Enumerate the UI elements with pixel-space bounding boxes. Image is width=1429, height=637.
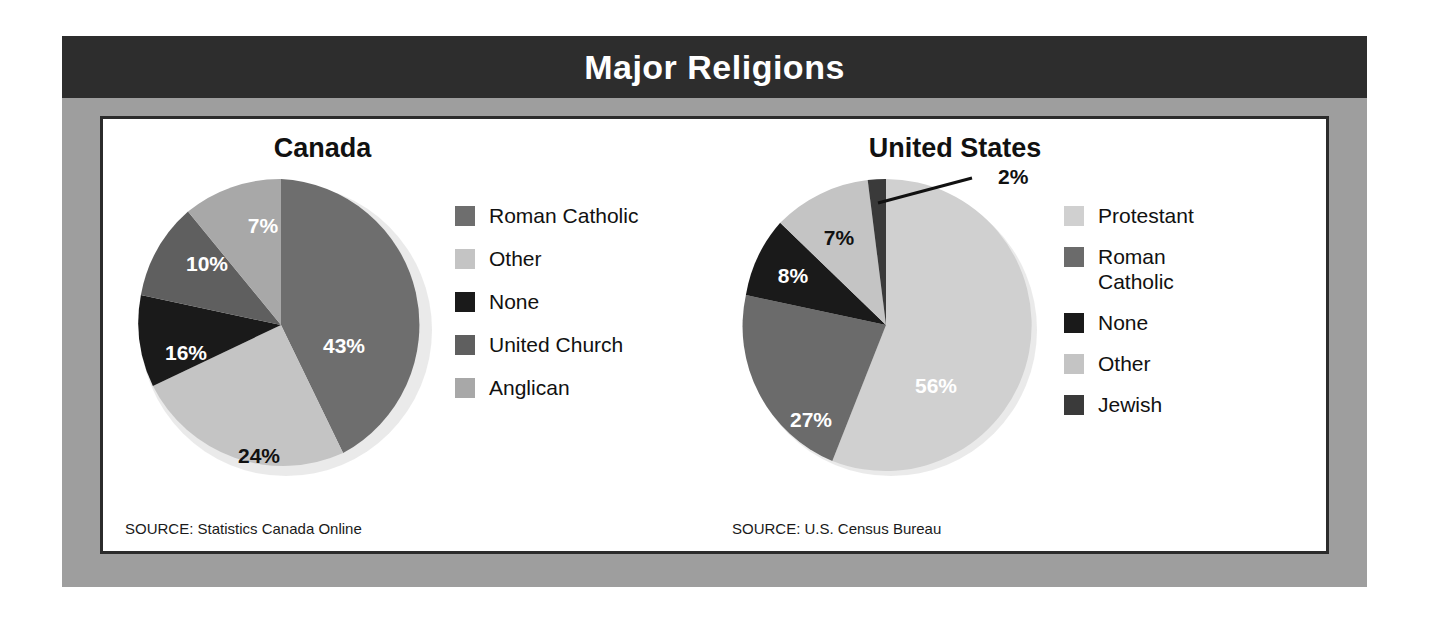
- legend-swatch-icon: [1064, 354, 1084, 374]
- legend-item-united-church[interactable]: United Church: [455, 332, 638, 357]
- legend-label: Jewish: [1098, 392, 1162, 417]
- legend-label: Roman Catholic: [489, 203, 638, 228]
- pie-label-canada-4: 7%: [248, 214, 279, 237]
- pie-chart-united-states: 56% 27% 8% 7% 2%: [736, 175, 1036, 475]
- page-title: Major Religions: [584, 48, 845, 87]
- legend-canada: Roman Catholic Other None United Church …: [455, 203, 638, 418]
- legend-item-anglican[interactable]: Anglican: [455, 375, 638, 400]
- legend-label: Other: [1098, 351, 1151, 376]
- pie-chart-canada: 43% 24% 16% 10% 7%: [131, 175, 431, 475]
- pie-label-us-4: 2%: [998, 165, 1029, 188]
- legend-label: None: [489, 289, 539, 314]
- legend-swatch-icon: [1064, 206, 1084, 226]
- legend-swatch-icon: [1064, 247, 1084, 267]
- source-note-canada: SOURCE: Statistics Canada Online: [125, 520, 362, 537]
- legend-swatch-icon: [455, 292, 475, 312]
- chart-title-united-states: United States: [650, 133, 1260, 164]
- legend-item-other[interactable]: Other: [455, 246, 638, 271]
- poster-header: Major Religions: [62, 36, 1367, 98]
- legend-swatch-icon: [1064, 395, 1084, 415]
- legend-item-none[interactable]: None: [455, 289, 638, 314]
- legend-label: Anglican: [489, 375, 570, 400]
- legend-swatch-icon: [455, 378, 475, 398]
- legend-label: United Church: [489, 332, 623, 357]
- legend-item-roman-catholic[interactable]: Roman Catholic: [455, 203, 638, 228]
- legend-swatch-icon: [455, 249, 475, 269]
- legend-swatch-icon: [455, 335, 475, 355]
- pie-label-canada-2: 16%: [165, 341, 207, 364]
- legend-item-other[interactable]: Other: [1064, 351, 1194, 376]
- legend-swatch-icon: [455, 206, 475, 226]
- legend-item-jewish[interactable]: Jewish: [1064, 392, 1194, 417]
- pie-label-canada-0: 43%: [323, 334, 365, 357]
- legend-item-roman-catholic[interactable]: Roman Catholic: [1064, 244, 1194, 294]
- pie-svg-canada: 43% 24% 16% 10% 7%: [131, 175, 431, 475]
- chart-canada: Canada 43% 24% 16% 10: [103, 119, 718, 551]
- pie-label-us-0: 56%: [915, 374, 957, 397]
- poster-container: Major Religions Canada 43%: [62, 36, 1367, 587]
- pie-label-us-2: 8%: [778, 264, 809, 287]
- legend-label: Other: [489, 246, 542, 271]
- legend-item-none[interactable]: None: [1064, 310, 1194, 335]
- legend-swatch-icon: [1064, 313, 1084, 333]
- legend-item-protestant[interactable]: Protestant: [1064, 203, 1194, 228]
- chart-title-canada: Canada: [15, 133, 630, 164]
- legend-label: Protestant: [1098, 203, 1194, 228]
- source-note-united-states: SOURCE: U.S. Census Bureau: [732, 520, 941, 537]
- legend-united-states: Protestant Roman Catholic None Other Jew…: [1064, 203, 1194, 433]
- charts-panel: Canada 43% 24% 16% 10: [100, 116, 1329, 554]
- legend-label: None: [1098, 310, 1148, 335]
- pie-svg-united-states: 56% 27% 8% 7% 2%: [736, 175, 1036, 475]
- pie-label-canada-3: 10%: [186, 252, 228, 275]
- pie-label-us-1: 27%: [790, 408, 832, 431]
- legend-label: Roman Catholic: [1098, 244, 1174, 294]
- pie-label-canada-1: 24%: [238, 444, 280, 467]
- pie-label-us-3: 7%: [824, 226, 855, 249]
- chart-united-states: United States 56% 27%: [718, 119, 1328, 551]
